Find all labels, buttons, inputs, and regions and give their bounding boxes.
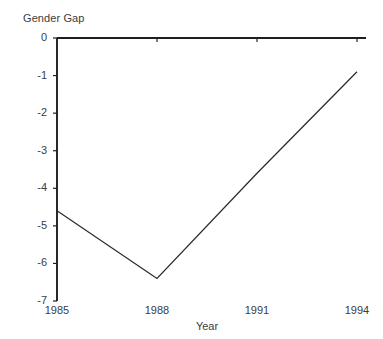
x-axis-title: Year [167,320,247,332]
x-axis-tick-label: 1985 [34,304,80,316]
gender-gap-chart: Gender Gap 0-1-2-3-4-5-6-7 1985198819911… [0,0,383,339]
y-axis-tick-label: -3 [13,144,47,156]
y-axis-tick-label: -5 [13,219,47,231]
y-axis-tick-label: 0 [13,31,47,43]
x-axis-tick-label: 1991 [234,304,280,316]
y-axis-tick-label: -1 [13,69,47,81]
y-axis-tick-label: -4 [13,181,47,193]
x-axis-tick-label: 1994 [334,304,380,316]
y-axis-tick-label: -6 [13,256,47,268]
y-axis-tick-label: -2 [13,106,47,118]
x-axis-tick-label: 1988 [134,304,180,316]
chart-plot-area [0,0,383,339]
data-series-line [57,72,357,279]
